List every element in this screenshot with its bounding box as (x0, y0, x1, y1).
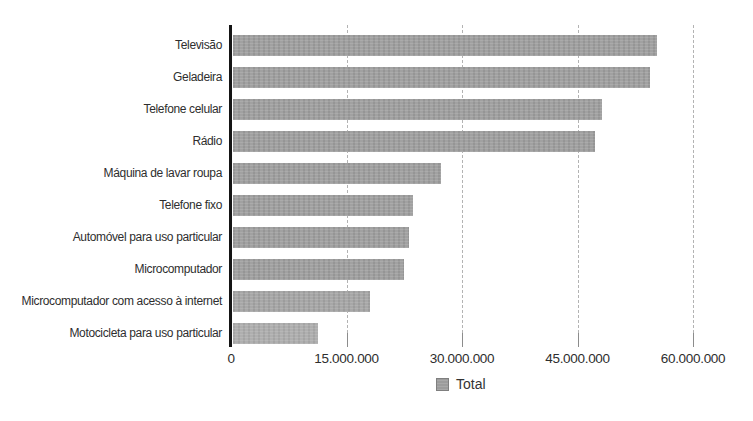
bar-6 (233, 195, 413, 216)
x-axis-tick (693, 333, 694, 347)
bar-3 (233, 99, 602, 120)
bar-7 (233, 227, 409, 248)
gridline-60.000.000 (693, 25, 694, 333)
category-label: Rádio (0, 131, 222, 152)
category-label: Motocicleta para uso particular (0, 323, 222, 344)
bar-4 (233, 131, 595, 152)
legend: Total (436, 376, 486, 392)
x-tick-label: 45.000.000 (545, 351, 610, 366)
category-label: Geladeira (0, 67, 222, 88)
category-label: Telefone fixo (0, 195, 222, 216)
x-tick-label: 15.000.000 (314, 351, 379, 366)
category-label: Microcomputador (0, 259, 222, 280)
category-label: Máquina de lavar roupa (0, 163, 222, 184)
category-label: Automóvel para uso particular (0, 227, 222, 248)
bar-2 (233, 67, 650, 88)
bar-10 (233, 323, 318, 344)
bar-chart-figure: TelevisãoGeladeiraTelefone celularRádioM… (0, 0, 753, 421)
bar-1 (233, 35, 657, 56)
x-axis-tick (347, 333, 348, 347)
category-label: Telefone celular (0, 99, 222, 120)
x-axis-tick (578, 333, 579, 347)
category-label: Microcomputador com acesso à internet (0, 291, 222, 312)
bar-5 (233, 163, 441, 184)
y-axis-line (229, 25, 232, 347)
category-label: Televisão (0, 35, 222, 56)
plot-area (231, 25, 743, 347)
x-axis-tick (462, 333, 463, 347)
bar-9 (233, 291, 370, 312)
legend-label: Total (456, 376, 486, 392)
x-tick-label: 60.000.000 (661, 351, 726, 366)
bar-8 (233, 259, 404, 280)
x-tick-label: 0 (227, 351, 234, 366)
x-tick-label: 30.000.000 (430, 351, 495, 366)
legend-swatch-icon (436, 378, 449, 391)
